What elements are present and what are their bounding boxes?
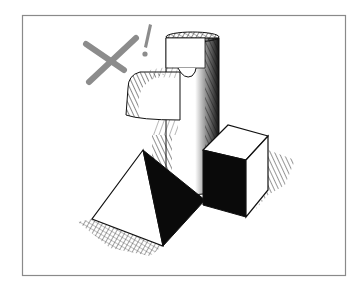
nose-shape	[126, 67, 180, 120]
exclamation-mark-icon	[142, 24, 152, 57]
illustration-canvas	[0, 0, 363, 284]
cross-mark-icon	[86, 38, 136, 82]
